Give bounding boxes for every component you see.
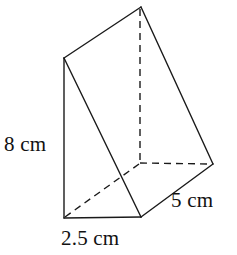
prism-drawing bbox=[0, 0, 237, 255]
depth-label: 5 cm bbox=[171, 190, 213, 211]
hidden-edge-back-to-right bbox=[140, 163, 212, 164]
width-label: 2.5 cm bbox=[61, 228, 119, 249]
edge-bottom-front bbox=[64, 217, 141, 218]
visible-edges-group bbox=[64, 7, 213, 218]
edge-left-top-to-apex bbox=[64, 7, 141, 58]
edge-left-top-to-front-bottom bbox=[64, 58, 141, 217]
edge-apex-to-right bbox=[141, 7, 213, 164]
height-label: 8 cm bbox=[4, 134, 46, 155]
triangular-prism-figure: 8 cm 5 cm 2.5 cm bbox=[0, 0, 237, 255]
